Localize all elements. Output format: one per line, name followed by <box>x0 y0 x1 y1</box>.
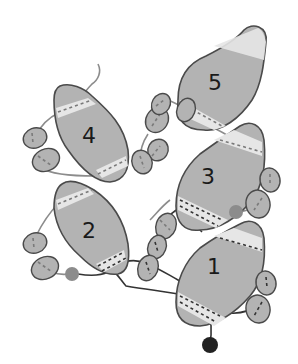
small-round-bead-gray <box>65 267 79 281</box>
bead-label-4: 4 <box>82 123 96 148</box>
seed-bead <box>20 229 49 256</box>
large-bead-4: 4 <box>54 85 128 182</box>
beading-diagram: 5 4 3 2 1 <box>0 0 298 364</box>
small-round-bead-black <box>202 337 218 353</box>
small-round-bead-gray <box>229 205 243 219</box>
bead-label-1: 1 <box>207 254 221 279</box>
large-bead-2: 2 <box>54 182 129 275</box>
bead-label-2: 2 <box>82 218 96 243</box>
seed-bead <box>20 124 49 151</box>
seed-bead <box>28 252 63 284</box>
bead-label-5: 5 <box>208 70 222 95</box>
bead-label-3: 3 <box>201 164 215 189</box>
